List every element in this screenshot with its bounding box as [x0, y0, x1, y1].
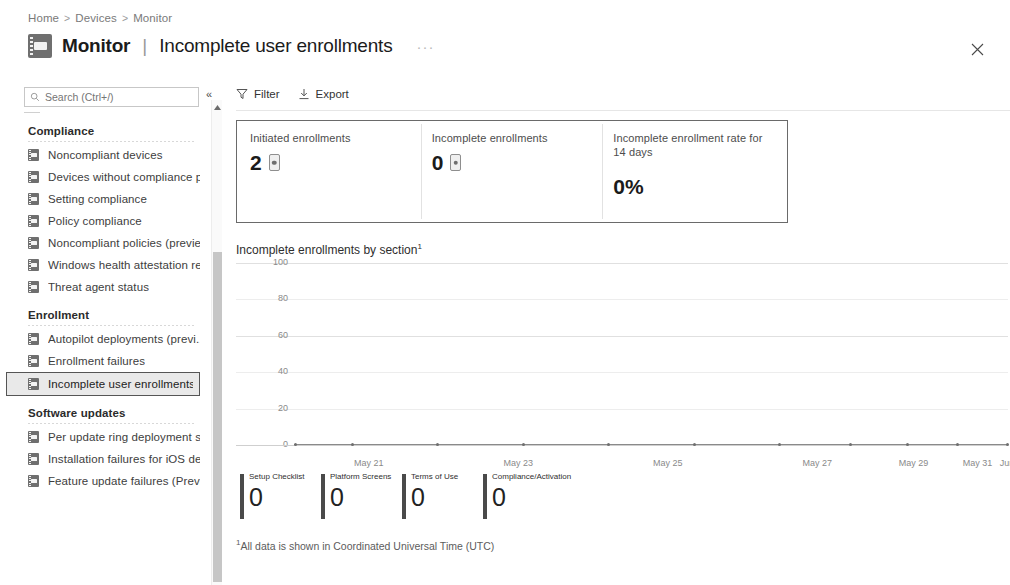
legend-value: 0 — [330, 483, 402, 511]
legend-label: Platform Screens — [330, 472, 402, 482]
sidebar-item-label: Setting compliance — [48, 193, 147, 205]
page-title: Monitor | Incomplete user enrollments ··… — [28, 34, 434, 58]
footnote: 1All data is shown in Coordinated Univer… — [236, 538, 494, 552]
sidebar: « ComplianceNoncompliant devicesDevices … — [0, 80, 220, 585]
kpi-value: 2 — [250, 152, 262, 173]
chart-x-tick-label: May 23 — [504, 458, 534, 468]
sidebar-item-windows-health-attestation-re[interactable]: Windows health attestation re... — [0, 254, 206, 276]
kpi-value: 0 — [432, 152, 444, 173]
close-icon[interactable] — [966, 38, 988, 60]
breadcrumb-item-monitor[interactable]: Monitor — [133, 12, 172, 24]
report-icon — [28, 281, 39, 293]
toolbar: Filter Export — [232, 80, 1010, 108]
report-icon — [28, 431, 39, 443]
more-menu-icon[interactable]: ··· — [416, 39, 434, 54]
gridline — [236, 372, 1008, 373]
breadcrumb-item-devices[interactable]: Devices — [75, 12, 117, 24]
sidebar-item-label: Feature update failures (Previ... — [48, 475, 200, 487]
chart-data-point[interactable] — [294, 443, 297, 446]
breadcrumb: Home > Devices > Monitor — [28, 12, 172, 24]
chart-data-point[interactable] — [351, 443, 354, 446]
legend-color-bar — [240, 474, 244, 519]
chart-data-point[interactable] — [1006, 443, 1009, 446]
search-box[interactable] — [24, 87, 199, 107]
legend-item[interactable]: Terms of Use0 — [402, 472, 483, 511]
device-icon — [450, 154, 461, 171]
report-icon — [28, 171, 39, 183]
page-root: Home > Devices > Monitor Monitor | Incom… — [0, 0, 1010, 585]
kpi-title: Incomplete enrollments — [432, 131, 593, 145]
filter-button[interactable]: Filter — [236, 88, 280, 100]
report-icon — [28, 453, 39, 465]
legend-item[interactable]: Platform Screens0 — [321, 472, 402, 511]
sidebar-group-title: Enrollment — [0, 309, 206, 323]
sidebar-item-enrollment-failures[interactable]: Enrollment failures — [0, 350, 206, 372]
report-icon — [28, 355, 39, 367]
sidebar-item-label: Autopilot deployments (previ... — [48, 333, 200, 345]
download-icon — [298, 88, 310, 100]
chart-gridline: 60 — [236, 336, 1008, 337]
sidebar-item-threat-agent-status[interactable]: Threat agent status — [0, 276, 206, 298]
chart-gridline: 80 — [236, 299, 1008, 300]
kpi-card-3: Incomplete enrollment rate for 14 days0% — [603, 124, 784, 219]
search-input[interactable] — [45, 91, 193, 103]
sidebar-item-autopilot-deployments-previ[interactable]: Autopilot deployments (previ... — [0, 328, 206, 350]
legend-item[interactable]: Compliance/Activation0 — [483, 472, 564, 511]
chart-data-point[interactable] — [693, 443, 696, 446]
chart-data-point[interactable] — [522, 443, 525, 446]
report-icon — [28, 215, 39, 227]
legend-color-bar — [321, 474, 325, 519]
chart-title-superscript: 1 — [417, 242, 421, 251]
export-button[interactable]: Export — [298, 88, 349, 100]
page-title-sub: Incomplete user enrollments — [159, 35, 392, 57]
sidebar-divider — [24, 112, 40, 113]
legend-value: 0 — [411, 483, 483, 511]
device-icon — [269, 154, 280, 171]
sidebar-item-noncompliant-devices[interactable]: Noncompliant devices — [0, 144, 206, 166]
chart-y-tick-label: 40 — [266, 366, 288, 376]
sidebar-item-installation-failures-for-ios-de[interactable]: Installation failures for iOS de... — [0, 448, 206, 470]
sidebar-scrollbar[interactable] — [211, 100, 222, 585]
chart-x-tick-label: May 25 — [653, 458, 683, 468]
sidebar-group-rule — [28, 423, 194, 424]
title-divider: | — [142, 35, 147, 57]
sidebar-group-title: Compliance — [0, 125, 206, 139]
chart-x-tick-label: May 21 — [354, 458, 384, 468]
export-label: Export — [316, 88, 349, 100]
chart-plot-area: 100806040200 — [236, 263, 1008, 453]
sidebar-item-feature-update-failures-previ[interactable]: Feature update failures (Previ... — [0, 470, 206, 492]
chart-gridline: 20 — [236, 409, 1008, 410]
toolbar-divider — [236, 110, 1010, 111]
sidebar-item-devices-without-compliance-p[interactable]: Devices without compliance p... — [0, 166, 206, 188]
kpi-value-row: 2 — [250, 152, 411, 173]
kpi-value-row: 0 — [432, 152, 593, 173]
legend-color-bar — [483, 474, 487, 519]
chart-legend: Setup Checklist0Platform Screens0Terms o… — [240, 472, 564, 511]
sidebar-item-setting-compliance[interactable]: Setting compliance — [0, 188, 206, 210]
chart-y-tick-label: 20 — [266, 403, 288, 413]
scroll-up-icon[interactable] — [212, 102, 223, 113]
sidebar-group-rule — [28, 325, 194, 326]
kpi-value: 0% — [613, 176, 643, 197]
sidebar-item-label: Windows health attestation re... — [48, 259, 200, 271]
monitor-notebook-icon — [28, 34, 52, 58]
sidebar-item-label: Incomplete user enrollments — [48, 378, 193, 390]
sidebar-item-incomplete-user-enrollments[interactable]: Incomplete user enrollments — [6, 372, 200, 396]
sidebar-item-label: Enrollment failures — [48, 355, 145, 367]
legend-item[interactable]: Setup Checklist0 — [240, 472, 321, 511]
filter-label: Filter — [254, 88, 280, 100]
sidebar-item-noncompliant-policies-previe[interactable]: Noncompliant policies (previe... — [0, 232, 206, 254]
chart-series-line — [294, 444, 1008, 445]
collapse-sidebar-icon[interactable]: « — [206, 89, 212, 100]
gridline — [236, 299, 1008, 300]
sidebar-item-per-update-ring-deployment-s[interactable]: Per update ring deployment s... — [0, 426, 206, 448]
scrollbar-thumb[interactable] — [213, 252, 222, 582]
chart-y-tick-label: 60 — [266, 330, 288, 340]
sidebar-item-label: Policy compliance — [48, 215, 142, 227]
sidebar-item-policy-compliance[interactable]: Policy compliance — [0, 210, 206, 232]
kpi-card-group: Initiated enrollments2Incomplete enrollm… — [236, 120, 788, 223]
chart-x-tick-label: May 27 — [803, 458, 833, 468]
breadcrumb-item-home[interactable]: Home — [28, 12, 59, 24]
report-icon — [28, 193, 39, 205]
kpi-card-1: Initiated enrollments2 — [240, 124, 422, 219]
